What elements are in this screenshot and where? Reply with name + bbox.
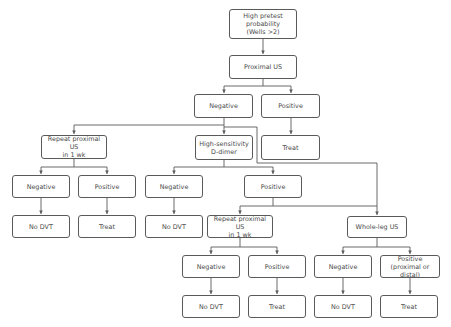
node-proximal-us: Proximal US — [229, 55, 297, 79]
node-positive-d: Positive — [244, 175, 302, 198]
arrowhead-icon — [39, 211, 43, 215]
node-treat-1: Treat — [261, 135, 320, 160]
node-no-dvt-a: No DVT — [12, 215, 70, 238]
arrowhead-icon — [172, 211, 176, 215]
arrowhead-icon — [289, 131, 293, 135]
node-start: High pretest probability (Wells >2) — [229, 9, 297, 39]
connector-line — [343, 238, 410, 254]
arrowhead-icon — [275, 251, 279, 255]
arrowhead-icon — [408, 291, 412, 295]
node-repeat-proximal-us-a: Repeat proximal US in 1 wk — [41, 135, 107, 159]
node-d-dimer: High-sensitivity D-dimer — [195, 135, 253, 160]
node-negative-a: Negative — [12, 175, 70, 198]
node-treat-b: Treat — [248, 295, 306, 318]
arrowhead-icon — [172, 171, 176, 175]
connector-line — [41, 159, 107, 174]
arrowhead-icon — [72, 131, 76, 135]
node-negative-w: Negative — [314, 255, 372, 278]
connector-line — [211, 238, 277, 254]
arrowhead-icon — [39, 171, 43, 175]
arrowhead-icon — [209, 291, 213, 295]
node-positive-1: Positive — [261, 94, 320, 118]
arrowhead-icon — [275, 291, 279, 295]
arrowhead-icon — [209, 251, 213, 255]
arrowhead-icon — [238, 211, 242, 215]
dvt-diagnostic-flowchart: High pretest probability (Wells >2) Prox… — [0, 0, 451, 327]
node-treat-w: Treat — [380, 295, 438, 318]
node-negative-b: Negative — [182, 255, 240, 278]
arrowhead-icon — [341, 251, 345, 255]
arrowhead-icon — [375, 212, 379, 216]
node-treat-a: Treat — [78, 215, 136, 238]
arrowhead-icon — [408, 251, 412, 255]
connector-line — [240, 198, 377, 214]
node-negative-d: Negative — [145, 175, 203, 198]
arrowhead-icon — [271, 171, 275, 175]
arrowhead-icon — [222, 131, 226, 135]
node-positive-a: Positive — [78, 175, 136, 198]
node-repeat-proximal-us-b: Repeat proximal US in 1 wk — [207, 215, 273, 238]
node-positive-w: Positive (proximal or distal) — [380, 255, 440, 278]
connector-line — [74, 125, 224, 134]
connector-line — [224, 79, 291, 93]
arrowhead-icon — [105, 171, 109, 175]
arrowhead-icon — [261, 51, 265, 55]
arrowhead-icon — [105, 211, 109, 215]
node-no-dvt-d: No DVT — [145, 215, 203, 238]
node-whole-leg-us: Whole-leg US — [347, 216, 407, 238]
arrowhead-icon — [289, 90, 293, 94]
arrowhead-icon — [341, 291, 345, 295]
node-no-dvt-w: No DVT — [314, 295, 372, 318]
arrowhead-icon — [222, 90, 226, 94]
node-negative-1: Negative — [194, 94, 253, 118]
node-positive-b: Positive — [248, 255, 306, 278]
node-no-dvt-b: No DVT — [182, 295, 240, 318]
connector-line — [174, 160, 273, 174]
